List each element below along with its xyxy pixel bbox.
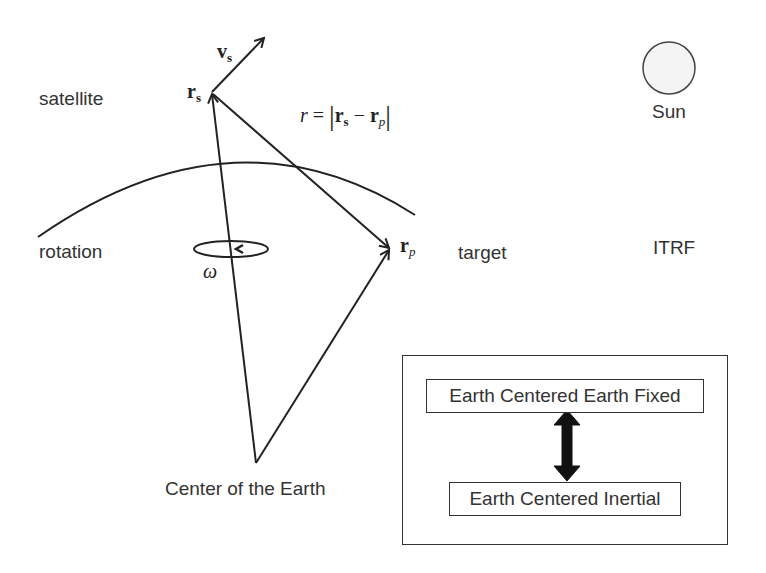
rotation-label: rotation xyxy=(39,241,102,263)
position-vector-target xyxy=(256,250,389,463)
ecef-frame-box: Earth Centered Earth Fixed xyxy=(426,379,704,413)
target-label: target xyxy=(458,242,507,264)
position-vector-satellite xyxy=(212,94,256,463)
sun-icon xyxy=(643,42,695,94)
range-equation: r = |rs − rp| xyxy=(300,100,391,132)
satellite-position-symbol: rs xyxy=(187,80,201,106)
satellite-label: satellite xyxy=(39,88,103,110)
rotation-arrow-icon xyxy=(236,245,243,253)
earth-surface-arc xyxy=(38,163,415,237)
eci-frame-box: Earth Centered Inertial xyxy=(449,482,681,516)
target-position-symbol: rp xyxy=(400,234,415,260)
velocity-symbol: vs xyxy=(217,40,232,66)
sun-label: Sun xyxy=(652,101,686,123)
center-of-earth-label: Center of the Earth xyxy=(165,478,326,500)
omega-symbol: ω xyxy=(203,260,217,283)
itrf-label: ITRF xyxy=(653,237,695,259)
